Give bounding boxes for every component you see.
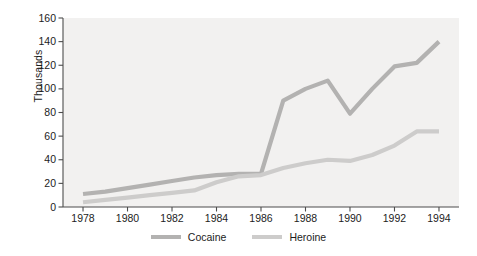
x-axis-tick-labels: 197819801982198419861988199019921994 <box>0 213 477 229</box>
y-tick-label: 0 <box>30 202 56 213</box>
legend-label-cocaine: Cocaine <box>188 232 227 243</box>
x-tick-label: 1980 <box>105 213 151 224</box>
x-tick-label: 1988 <box>282 213 328 224</box>
axis-lines <box>63 18 459 207</box>
y-tick-label: 160 <box>30 13 56 24</box>
y-tick-label: 120 <box>30 60 56 71</box>
y-tick-label: 40 <box>30 154 56 165</box>
legend-swatch-heroine <box>252 235 282 239</box>
y-tick-label: 140 <box>30 36 56 47</box>
x-tick-label: 1982 <box>149 213 195 224</box>
y-tick-label: 20 <box>30 178 56 189</box>
x-tick-label: 1990 <box>327 213 373 224</box>
y-tick-label: 100 <box>30 83 56 94</box>
x-tick-label: 1978 <box>60 213 106 224</box>
y-tick-label: 60 <box>30 131 56 142</box>
line-chart-figure: Thousands 020406080100120140160 19781980… <box>0 0 477 256</box>
series-lines <box>83 42 439 203</box>
x-tick-label: 1986 <box>238 213 284 224</box>
x-tick-label: 1984 <box>194 213 240 224</box>
chart-legend: Cocaine Heroine <box>0 232 477 243</box>
legend-swatch-cocaine <box>151 235 181 239</box>
x-tick-label: 1992 <box>371 213 417 224</box>
tick-marks <box>59 18 439 212</box>
legend-entry-cocaine: Cocaine <box>151 232 227 243</box>
legend-entry-heroine: Heroine <box>252 232 326 243</box>
x-tick-label: 1994 <box>416 213 462 224</box>
y-tick-label: 80 <box>30 107 56 118</box>
legend-label-heroine: Heroine <box>289 232 326 243</box>
